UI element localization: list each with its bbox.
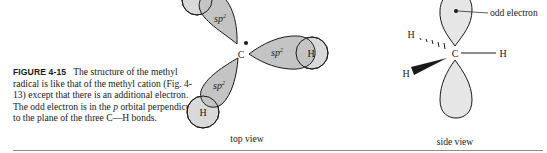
side-view-diagram: odd electron C H H H side view — [402, 0, 538, 147]
wedge-bond — [411, 58, 447, 75]
hydrogen-wedge-label: H — [402, 68, 409, 79]
carbon-label-top: C — [238, 49, 245, 60]
top-view-diagram: sp2 H sp2 H sp2 C top view — [182, 0, 328, 144]
p-lobe-lower — [440, 60, 472, 118]
hydrogen-dashed-label: H — [407, 29, 414, 40]
odd-electron-label: odd electron — [490, 7, 538, 18]
methyl-radical-figure: sp2 H sp2 H sp2 C top view odd electron … — [0, 0, 547, 153]
top-view-label: top view — [230, 133, 263, 144]
side-view-label: side view — [437, 136, 474, 147]
p-lobe-upper — [440, 0, 472, 46]
bottom-rule — [13, 150, 543, 151]
hydrogen-label-lower: H — [199, 107, 206, 118]
odd-electron-dot-side — [454, 9, 458, 13]
hydrogen-label-right: H — [307, 48, 314, 59]
odd-electron-dot-top — [244, 41, 248, 45]
carbon-label-side: C — [452, 48, 459, 59]
dashed-bond — [420, 38, 445, 49]
hydrogen-plain-label: H — [499, 48, 506, 59]
